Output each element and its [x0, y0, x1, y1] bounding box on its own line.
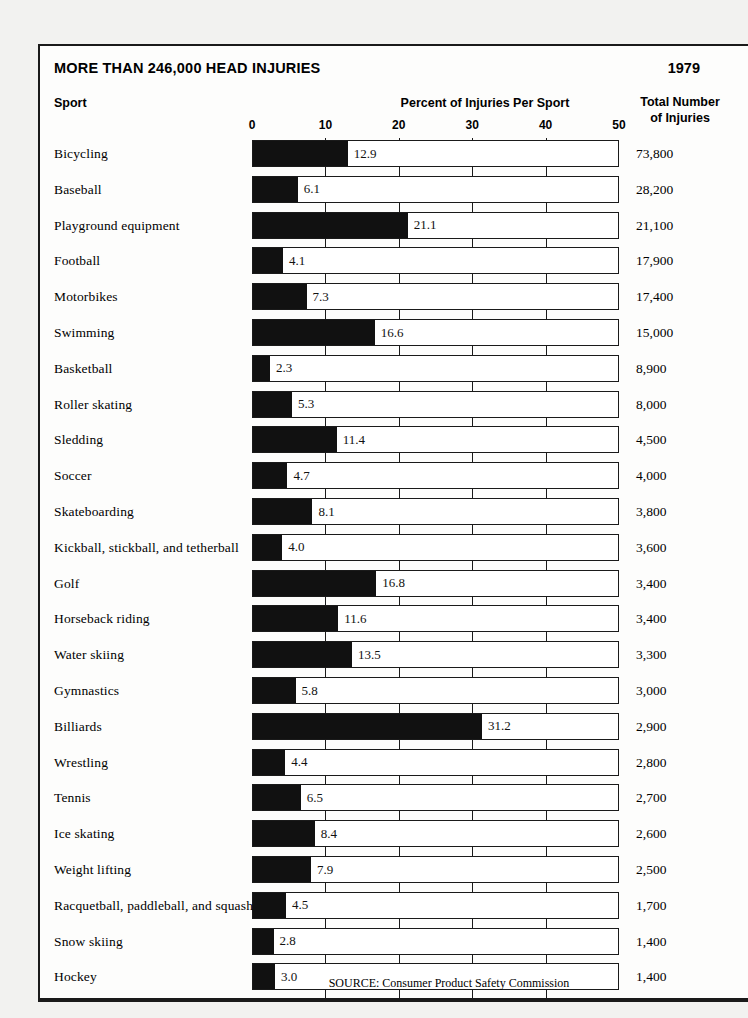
category-label: Hockey — [54, 969, 97, 985]
bar-value-label: 4.7 — [287, 468, 309, 484]
bar-value-label: 2.8 — [274, 933, 296, 949]
bar-plot: 12.96.121.14.17.316.62.35.311.44.78.14.0… — [252, 138, 619, 998]
bar-fill — [253, 678, 296, 703]
chart-row: 16.6 — [252, 317, 619, 353]
bar-value-label: 8.4 — [315, 826, 337, 842]
totals-header-line1: Total Number — [620, 94, 740, 110]
header: MORE THAN 246,000 HEAD INJURIES 1979 — [54, 60, 738, 84]
chart-row: 5.3 — [252, 389, 619, 425]
bar-fill — [253, 535, 282, 560]
chart-row: 31.2 — [252, 711, 619, 747]
bar-track: 16.8 — [252, 570, 619, 597]
bar-track: 4.0 — [252, 534, 619, 561]
bar-track: 16.6 — [252, 319, 619, 346]
total-injuries-value: 17,400 — [636, 289, 736, 305]
total-injuries-value: 3,400 — [636, 576, 736, 592]
chart-row: 11.6 — [252, 603, 619, 639]
chart-row: 8.4 — [252, 818, 619, 854]
bar-value-label: 6.1 — [298, 181, 320, 197]
chart-row: 16.8 — [252, 568, 619, 604]
total-injuries-value: 2,800 — [636, 755, 736, 771]
total-injuries-value: 3,000 — [636, 683, 736, 699]
chart-row: 11.4 — [252, 424, 619, 460]
total-injuries-value: 8,900 — [636, 361, 736, 377]
bar-fill — [253, 284, 307, 309]
category-label: Golf — [54, 576, 79, 592]
category-label: Playground equipment — [54, 218, 180, 234]
bar-fill — [253, 213, 408, 238]
bar-fill — [253, 785, 301, 810]
axis-title: Percent of Injuries Per Sport — [320, 96, 650, 110]
category-label: Roller skating — [54, 397, 132, 413]
bar-fill — [253, 392, 292, 417]
total-injuries-value: 1,700 — [636, 898, 736, 914]
x-axis-tick-labels: 01020304050 — [40, 118, 748, 136]
total-injuries-value: 2,600 — [636, 826, 736, 842]
bar-fill — [253, 571, 376, 596]
page-title: MORE THAN 246,000 HEAD INJURIES — [54, 60, 320, 76]
bar-fill — [253, 857, 311, 882]
bar-value-label: 8.1 — [312, 504, 334, 520]
total-injuries-value: 3,300 — [636, 647, 736, 663]
chart-row: 2.3 — [252, 353, 619, 389]
bar-value-label: 12.9 — [348, 146, 377, 162]
total-injuries-value: 2,900 — [636, 719, 736, 735]
bar-track: 4.5 — [252, 892, 619, 919]
total-injuries-value: 1,400 — [636, 969, 736, 985]
total-injuries-value: 4,000 — [636, 468, 736, 484]
bar-fill — [253, 499, 312, 524]
category-label: Soccer — [54, 468, 92, 484]
total-injuries-value: 3,800 — [636, 504, 736, 520]
total-injuries-value: 4,500 — [636, 432, 736, 448]
bar-value-label: 4.0 — [282, 539, 304, 555]
chart-row: 13.5 — [252, 639, 619, 675]
category-label: Billiards — [54, 719, 102, 735]
bar-track: 5.8 — [252, 677, 619, 704]
bar-fill — [253, 177, 298, 202]
bar-fill — [253, 356, 270, 381]
category-label: Basketball — [54, 361, 113, 377]
x-axis-tick-0: 0 — [249, 118, 256, 132]
total-injuries-value: 17,900 — [636, 253, 736, 269]
column-header-sport: Sport — [54, 96, 87, 110]
bar-track: 6.5 — [252, 784, 619, 811]
bar-value-label: 31.2 — [482, 718, 511, 734]
total-injuries-value: 8,000 — [636, 397, 736, 413]
category-label: Skateboarding — [54, 504, 134, 520]
total-injuries-value: 21,100 — [636, 218, 736, 234]
total-injuries-value: 73,800 — [636, 146, 736, 162]
chart-row: 12.9 — [252, 138, 619, 174]
total-injuries-value: 3,400 — [636, 611, 736, 627]
bar-track: 4.7 — [252, 462, 619, 489]
chart-row: 7.3 — [252, 281, 619, 317]
bar-track: 31.2 — [252, 713, 619, 740]
bar-value-label: 4.5 — [286, 897, 308, 913]
bar-track: 4.4 — [252, 749, 619, 776]
bar-track: 11.4 — [252, 426, 619, 453]
bar-value-label: 2.3 — [270, 360, 292, 376]
category-label: Swimming — [54, 325, 114, 341]
bar-value-label: 16.8 — [376, 575, 405, 591]
bar-value-label: 16.6 — [375, 325, 404, 341]
category-label: Water skiing — [54, 647, 124, 663]
x-axis-tick-30: 30 — [466, 118, 479, 132]
category-label: Weight lifting — [54, 862, 131, 878]
x-axis-tick-40: 40 — [539, 118, 552, 132]
bar-track: 11.6 — [252, 605, 619, 632]
bar-track: 4.1 — [252, 247, 619, 274]
bar-track: 6.1 — [252, 176, 619, 203]
bottom-rule — [38, 1000, 748, 1002]
chart-row: 4.5 — [252, 890, 619, 926]
bar-track: 12.9 — [252, 140, 619, 167]
bar-value-label: 5.3 — [292, 396, 314, 412]
category-label: Gymnastics — [54, 683, 119, 699]
x-axis-tick-10: 10 — [319, 118, 332, 132]
year-label: 1979 — [668, 60, 700, 76]
category-label: Horseback riding — [54, 611, 150, 627]
bar-track: 5.3 — [252, 391, 619, 418]
bar-track: 2.3 — [252, 355, 619, 382]
x-axis-tick-50: 50 — [612, 118, 625, 132]
category-label: Wrestling — [54, 755, 108, 771]
bar-value-label: 4.4 — [285, 754, 307, 770]
bar-value-label: 5.8 — [296, 683, 318, 699]
